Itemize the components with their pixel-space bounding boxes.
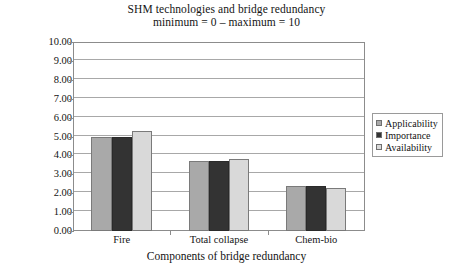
- y-tick-label: 10.00: [12, 37, 72, 47]
- y-tick-label: 1.00: [12, 207, 72, 217]
- bar[interactable]: [229, 159, 249, 231]
- gridline: [74, 97, 364, 98]
- x-category-label: Chem-bio: [268, 234, 365, 246]
- y-tick-label: 5.00: [12, 132, 72, 142]
- legend-swatch-icon: [376, 144, 382, 150]
- y-tick-label: 2.00: [12, 188, 72, 198]
- y-tick-label: 9.00: [12, 56, 72, 66]
- legend-label: Availability: [385, 142, 432, 153]
- legend-item[interactable]: Importance: [376, 129, 438, 141]
- legend-swatch-icon: [376, 120, 382, 126]
- gridline: [74, 78, 364, 79]
- x-axis-title: Components of bridge redundancy: [0, 250, 453, 262]
- y-tick-label: 6.00: [12, 113, 72, 123]
- bar[interactable]: [189, 161, 209, 231]
- chart-subtitle: minimum = 0 – maximum = 10: [0, 16, 453, 29]
- bar[interactable]: [91, 137, 111, 232]
- bar[interactable]: [112, 137, 132, 232]
- legend-item[interactable]: Availability: [376, 141, 438, 153]
- y-tick-label: 8.00: [12, 75, 72, 85]
- legend-item[interactable]: Applicability: [376, 117, 438, 129]
- y-tick-label: 7.00: [12, 94, 72, 104]
- bar-chart-figure: SHM technologies and bridge redundancy m…: [0, 0, 453, 272]
- chart-legend: ApplicabilityImportanceAvailability: [372, 113, 443, 157]
- bar[interactable]: [306, 186, 326, 231]
- bar[interactable]: [132, 131, 152, 231]
- chart-title: SHM technologies and bridge redundancy: [0, 3, 453, 16]
- legend-swatch-icon: [376, 132, 382, 138]
- gridline: [74, 116, 364, 117]
- bar[interactable]: [286, 186, 306, 231]
- x-category-label: Total collapse: [170, 234, 267, 246]
- legend-label: Importance: [385, 130, 431, 141]
- y-tick-mark: [69, 231, 74, 232]
- bar[interactable]: [209, 161, 229, 231]
- bar[interactable]: [326, 188, 346, 231]
- gridline: [74, 59, 364, 60]
- y-tick-label: 3.00: [12, 169, 72, 179]
- y-tick-label: 0.00: [12, 226, 72, 236]
- x-category-label: Fire: [73, 234, 170, 246]
- legend-label: Applicability: [385, 118, 438, 129]
- chart-title-block: SHM technologies and bridge redundancy m…: [0, 3, 453, 29]
- y-tick-label: 4.00: [12, 150, 72, 160]
- gridline: [74, 135, 364, 136]
